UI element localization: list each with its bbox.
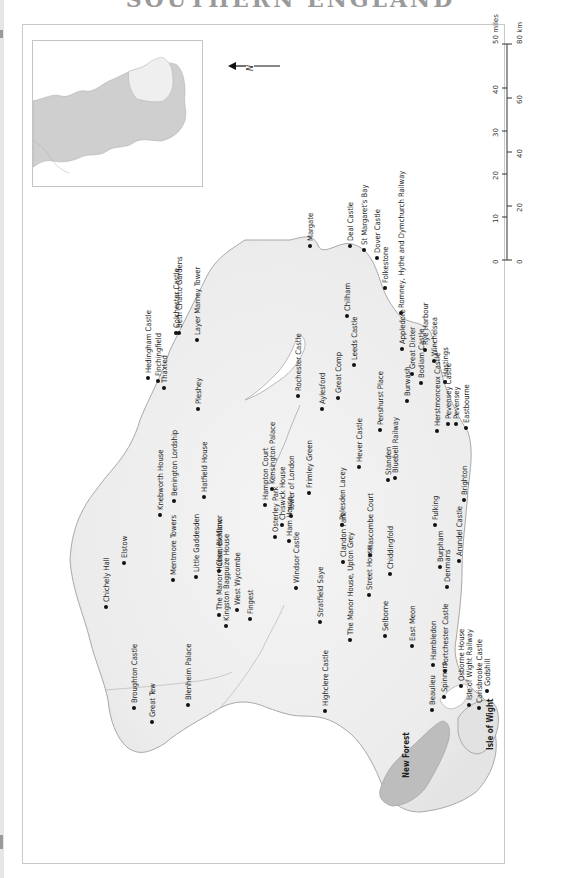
scale-km-tick: 20	[516, 203, 524, 212]
place-label: Elstow	[120, 536, 129, 558]
place-label: Aylesford	[318, 373, 327, 404]
place-dot	[104, 605, 108, 609]
place-label: Blenheim Palace	[184, 644, 193, 700]
place-label: Thaxted	[160, 355, 169, 383]
place-label: Margate	[306, 213, 315, 241]
place-dot	[307, 491, 311, 495]
place-dot	[393, 476, 397, 480]
place-label: Herstmonceux Castle	[433, 353, 442, 426]
place-dot	[132, 706, 136, 710]
place-dot	[388, 572, 392, 576]
place-dot	[383, 634, 387, 638]
place-dot	[462, 498, 466, 502]
place-label: Pevensey	[452, 387, 461, 419]
scale-miles-label: 50 miles	[492, 14, 500, 44]
scale-km-tick: 40	[516, 149, 524, 158]
place-label: Beaulieu	[428, 675, 437, 705]
place-label: West Wycombe	[233, 552, 242, 605]
place-label: Windsor Castle	[292, 532, 301, 583]
place-dot	[435, 429, 439, 433]
north-label: N	[246, 65, 255, 71]
place-label: Hatfield House	[200, 442, 209, 492]
place-dot	[438, 565, 442, 569]
place-dot	[433, 523, 437, 527]
place-dot	[196, 407, 200, 411]
place-label: The Manor House, Upton Grey	[346, 532, 355, 635]
place-dot	[464, 426, 468, 430]
place-dot	[217, 613, 221, 617]
place-dot	[146, 376, 150, 380]
place-label: Mentmore Towers	[169, 515, 178, 575]
place-label: Chichely Hall	[102, 557, 111, 602]
place-dot	[419, 381, 423, 385]
place-dot	[162, 386, 166, 390]
place-dot	[386, 478, 390, 482]
place-label: Great Dixter	[408, 327, 417, 369]
place-label: Knebworth House	[156, 449, 165, 510]
place-dot	[367, 593, 371, 597]
place-label: Osterley Park	[271, 486, 280, 532]
place-dot	[150, 720, 154, 724]
place-label: Hedingham Castle	[144, 310, 153, 373]
place-dot	[445, 585, 449, 589]
place-dot	[177, 331, 181, 335]
place-dot	[308, 244, 312, 248]
place-label: Beth Chatto Gardens	[175, 256, 184, 328]
place-label: Carisbrooke Castle	[475, 639, 484, 703]
place-dot	[446, 422, 450, 426]
scale-mile-tick: 0	[492, 260, 500, 264]
place-label: Layer Marney Tower	[193, 267, 202, 335]
scale-km-tick: 60	[516, 95, 524, 104]
place-dot	[194, 575, 198, 579]
place-dot	[467, 703, 471, 707]
place-label: Kingston Bagpuize House	[222, 534, 231, 621]
place-label: Isle of Wight	[486, 698, 495, 750]
place-label: Eastbourne	[462, 384, 471, 423]
place-dot	[352, 363, 356, 367]
north-arrow: N	[228, 56, 280, 76]
place-label: Ham House	[285, 496, 294, 536]
place-dot	[294, 586, 298, 590]
place-label: Pleshey	[194, 378, 203, 404]
place-label: New Forest	[402, 732, 411, 778]
place-dot	[362, 248, 366, 252]
place-label: Chiddingfold	[386, 526, 395, 569]
place-dot	[431, 663, 435, 667]
scale-mile-tick: 40	[492, 85, 500, 94]
place-label: Stratfield Saye	[316, 567, 325, 617]
place-dot	[248, 617, 252, 621]
place-dot	[485, 689, 489, 693]
place-dot	[375, 256, 379, 260]
place-label: Great Tew	[148, 683, 157, 717]
place-label: Great Comp	[334, 352, 343, 393]
place-dot	[172, 499, 176, 503]
place-label: Spinners	[440, 662, 449, 692]
place-label: Fulking	[431, 496, 440, 520]
place-label: St Margaret's Bay	[360, 184, 369, 245]
place-dot	[318, 620, 322, 624]
place-label: Hampton Court	[261, 448, 270, 500]
place-dot	[430, 708, 434, 712]
scale-mile-tick: 10	[492, 214, 500, 223]
place-label: Standen	[384, 447, 393, 475]
scale-mile-tick: 30	[492, 128, 500, 137]
place-label: Penshurst Place	[376, 371, 385, 425]
place-label: Frimley Green	[305, 440, 314, 488]
place-dot	[296, 394, 300, 398]
place-label: Rochester Castle	[294, 333, 303, 391]
place-dot	[410, 644, 414, 648]
place-dot	[405, 399, 409, 403]
place-label: Burwash	[403, 367, 412, 397]
place-dot	[122, 561, 126, 565]
scale-bar: 50 miles 80 km 0 10 20 30 40 0 20 40 60	[500, 30, 580, 280]
scale-km-label: 80 km	[516, 22, 524, 44]
place-label: Isle of Wight Railway	[465, 629, 474, 700]
place-label: Godshill	[483, 659, 492, 686]
place-dot	[348, 244, 352, 248]
place-dot	[442, 695, 446, 699]
place-label: Hever Castle	[355, 418, 364, 462]
place-dot	[235, 608, 239, 612]
place-dot	[287, 539, 291, 543]
place-label: Brighton	[460, 466, 469, 495]
place-label: Portchester Castle	[441, 603, 450, 666]
